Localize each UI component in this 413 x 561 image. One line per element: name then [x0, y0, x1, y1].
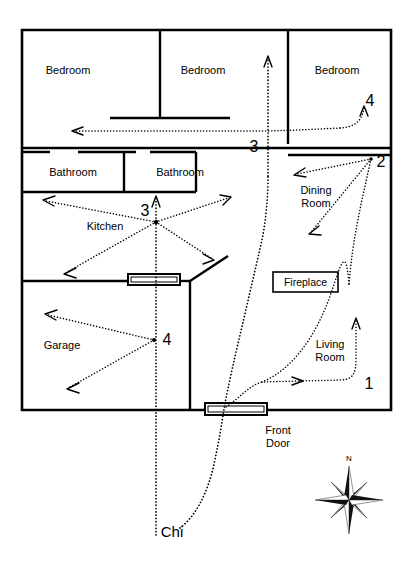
- compass-north-label: N: [346, 454, 352, 463]
- chi-arrow-west-hall: [72, 127, 83, 135]
- room-label-bedroom-3: Bedroom: [315, 64, 360, 76]
- room-label-living-room-line-1: Living: [316, 338, 345, 350]
- fireplace: Fireplace: [273, 272, 338, 292]
- front-door-label-line-1: Front: [265, 424, 291, 436]
- chi-arrow-kitchen-sw: [64, 268, 76, 278]
- chi-arrow-dining-southwest: [309, 226, 321, 235]
- chi-node-2-arrows: [294, 157, 373, 286]
- chi-arrow-kitchen-ne: [220, 195, 231, 205]
- compass-cardinal-points: [315, 466, 383, 534]
- room-label-living-room-line-2: Room: [315, 351, 344, 363]
- compass-rose: N: [315, 454, 383, 534]
- chi-label: Chi: [161, 523, 184, 540]
- chi-arrow-garage-nw: [45, 310, 57, 320]
- chi-arrow-living-east: [292, 377, 303, 385]
- chi-node-label-4-bedroom: 4: [366, 92, 375, 109]
- chi-hall-branch: [72, 106, 368, 135]
- chi-main-flow-path: [180, 56, 272, 528]
- room-label-dining-room-line-1: Dining: [300, 184, 331, 196]
- room-label-bathroom-1: Bathroom: [49, 166, 97, 178]
- floor-plan-canvas: Fireplace: [0, 0, 413, 561]
- chi-node-4-garage-arrows: [45, 310, 156, 393]
- chi-vertical-stem: [152, 196, 160, 535]
- chi-node-label-2: 2: [377, 153, 386, 170]
- annotation-labels: Front Door Chi: [161, 424, 291, 540]
- chi-node-label-4-garage: 4: [163, 331, 172, 348]
- floor-plan-diagram: Fireplace: [0, 0, 413, 561]
- room-label-garage: Garage: [44, 339, 81, 351]
- kitchen-garage-door: [128, 274, 180, 285]
- room-label-dining-room-line-2: Room: [301, 197, 330, 209]
- room-label-kitchen: Kitchen: [87, 220, 124, 232]
- front-door: [205, 403, 267, 415]
- room-labels: Bedroom Bedroom Bedroom Bathroom Bathroo…: [44, 64, 360, 363]
- chi-arrow-garage-sw: [67, 383, 79, 393]
- room-label-bathroom-2: Bathroom: [156, 166, 204, 178]
- room-label-bedroom-1: Bedroom: [46, 64, 91, 76]
- chi-node-labels: 1 2 3 3 4 4: [141, 92, 386, 392]
- chi-arrow-up-hall: [264, 56, 272, 67]
- chi-node-label-3-hall: 3: [250, 138, 259, 155]
- chi-node-label-3-kitchen: 3: [141, 202, 150, 219]
- chi-node-label-1: 1: [365, 375, 374, 392]
- chi-node-3-kitchen-arrows: [43, 195, 231, 278]
- front-door-label-line-2: Door: [266, 437, 290, 449]
- room-label-bedroom-2: Bedroom: [181, 64, 226, 76]
- fireplace-label: Fireplace: [284, 276, 327, 288]
